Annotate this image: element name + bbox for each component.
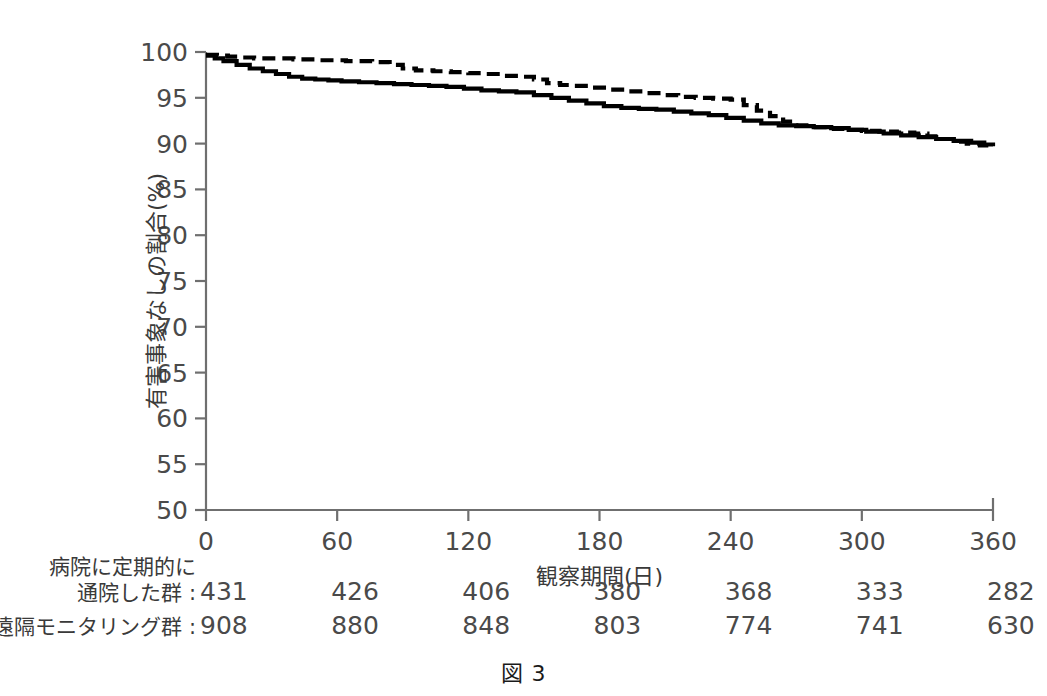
risk-count-value: 741 xyxy=(856,611,904,640)
x-axis-ticks: 060120180240300360 xyxy=(198,510,1017,556)
risk-count-value: 431 xyxy=(200,577,248,606)
risk-count-value: 282 xyxy=(987,577,1035,606)
y-tick-label: 55 xyxy=(156,450,188,479)
curve-series-1 xyxy=(206,56,993,147)
y-axis-title: 有害事象なしの割合(%) xyxy=(144,173,169,409)
kaplan-meier-chart: 50556065707580859095100 0601201802403003… xyxy=(0,0,1047,660)
y-tick-label: 95 xyxy=(156,84,188,113)
risk-count-value: 380 xyxy=(594,577,642,606)
risk-count-value: 368 xyxy=(725,577,773,606)
risk-count-value: 774 xyxy=(725,611,773,640)
x-tick-label: 120 xyxy=(444,527,492,556)
y-tick-label: 90 xyxy=(156,130,188,159)
numbers-at-risk-table: 病院に定期的に通院した群 :431426406380368333282遠隔モニタ… xyxy=(0,555,1035,640)
x-tick-label: 180 xyxy=(576,527,624,556)
x-tick-label: 240 xyxy=(707,527,755,556)
y-tick-label: 50 xyxy=(156,496,188,525)
risk-count-value: 406 xyxy=(462,577,510,606)
x-tick-label: 300 xyxy=(838,527,886,556)
figure-caption: 図 3 xyxy=(0,655,1047,687)
x-tick-label: 0 xyxy=(198,527,214,556)
risk-count-value: 848 xyxy=(462,611,510,640)
axis-lines xyxy=(206,52,993,510)
y-tick-label: 100 xyxy=(140,38,188,67)
survival-curves xyxy=(206,55,993,148)
risk-row-label: 遠隔モニタリング群 : xyxy=(0,615,196,639)
risk-row-label: 通院した群 : xyxy=(77,581,196,605)
risk-count-value: 908 xyxy=(200,611,248,640)
chart-area: 50556065707580859095100 0601201802403003… xyxy=(0,0,1047,660)
risk-count-value: 333 xyxy=(856,577,904,606)
x-tick-label: 60 xyxy=(321,527,353,556)
x-tick-label: 360 xyxy=(969,527,1017,556)
risk-count-value: 803 xyxy=(594,611,642,640)
figure-container: 50556065707580859095100 0601201802403003… xyxy=(0,0,1047,696)
risk-count-value: 880 xyxy=(331,611,379,640)
risk-count-value: 630 xyxy=(987,611,1035,640)
risk-count-value: 426 xyxy=(331,577,379,606)
risk-row-label: 病院に定期的に xyxy=(49,555,196,579)
